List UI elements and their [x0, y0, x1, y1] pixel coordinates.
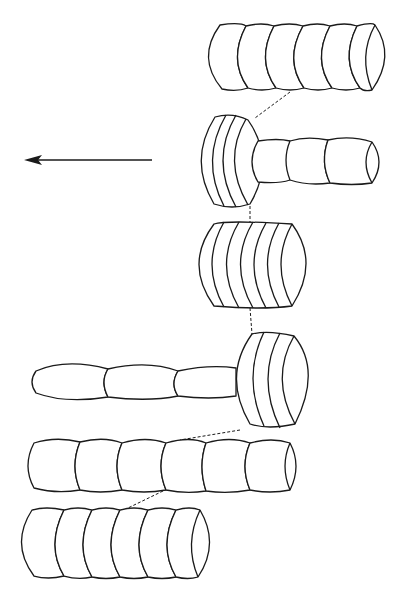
stage-1-filament: [208, 24, 384, 91]
stage-4-filament: [32, 332, 308, 428]
arrow-left-icon: [24, 155, 152, 165]
link-3-4: [250, 308, 252, 334]
link-5-6: [128, 491, 163, 508]
stage-2-filament: [201, 115, 379, 207]
stage-3-filament: [199, 222, 306, 308]
link-4-5: [180, 430, 240, 440]
filament-stages-diagram: [0, 0, 408, 606]
link-1-2: [255, 92, 290, 118]
stage-6-filament: [21, 508, 209, 579]
stage-5-filament: [28, 439, 296, 492]
